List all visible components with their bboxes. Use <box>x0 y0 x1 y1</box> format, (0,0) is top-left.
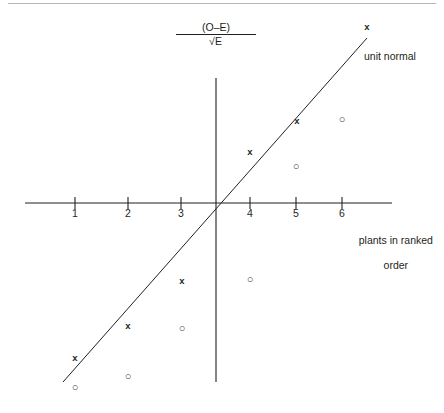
reference-line-group <box>63 38 367 382</box>
x-axis-tick-label-4: 4 <box>240 207 260 219</box>
data-point-x-4: x <box>243 147 257 159</box>
x-axis-caption-line-2: order <box>384 259 409 271</box>
data-point-x-5: x <box>290 116 304 128</box>
data-point-o-6: ○ <box>335 114 349 126</box>
x-axis-tick-label-5: 5 <box>286 207 306 219</box>
x-axis-tick-label-2: 2 <box>118 207 138 219</box>
data-point-o-5: ○ <box>289 161 303 173</box>
x-axis-caption-line-1: plants in ranked <box>359 234 433 246</box>
x-axis-caption: plants in ranked order <box>336 222 444 284</box>
unit-normal-annotation: unit normal <box>364 50 416 62</box>
unit-normal-reference-line <box>63 38 367 382</box>
x-axis-tick-label-1: 1 <box>65 207 85 219</box>
data-point-o-2: ○ <box>121 371 135 383</box>
y-axis-label-denominator: √E <box>176 34 256 47</box>
x-axis-tick-label-6: 6 <box>332 207 352 219</box>
data-point-o-1: ○ <box>68 382 82 394</box>
data-point-o-4: ○ <box>243 274 257 286</box>
y-axis-label: (O–E) √E <box>176 22 256 47</box>
figure-canvas: (O–E) √E unit normal plants in ranked or… <box>0 0 444 413</box>
x-axis-tick-label-3: 3 <box>171 207 191 219</box>
data-point-x-3: x <box>175 276 189 288</box>
radicand: E <box>214 34 223 47</box>
y-axis-label-numerator: (O–E) <box>176 22 256 34</box>
data-point-x-6: x <box>360 22 374 34</box>
data-point-x-2: x <box>121 321 135 333</box>
data-point-o-3: ○ <box>175 323 189 335</box>
data-point-x-1: x <box>68 353 82 365</box>
